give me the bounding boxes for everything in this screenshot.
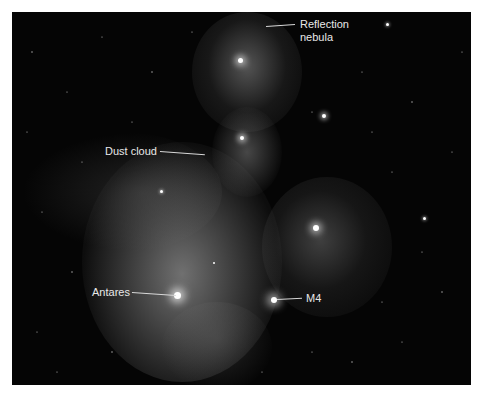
dust-cloud-label: Dust cloud [105,145,157,158]
star-left-cluster [160,190,163,193]
reflection-nebula-label: Reflection nebula [300,18,349,44]
nebula-star-mid [240,136,244,140]
star-top-right [386,23,389,26]
astrophoto [12,12,471,385]
reflection-nebula-star [238,58,243,63]
star-mid [213,262,215,264]
nebula-star-right [313,225,319,231]
starfield [12,12,471,385]
star-upper-right [322,114,326,118]
star-far-right [423,217,426,220]
m4-label: M4 [306,292,321,305]
antares-label: Antares [92,286,130,299]
